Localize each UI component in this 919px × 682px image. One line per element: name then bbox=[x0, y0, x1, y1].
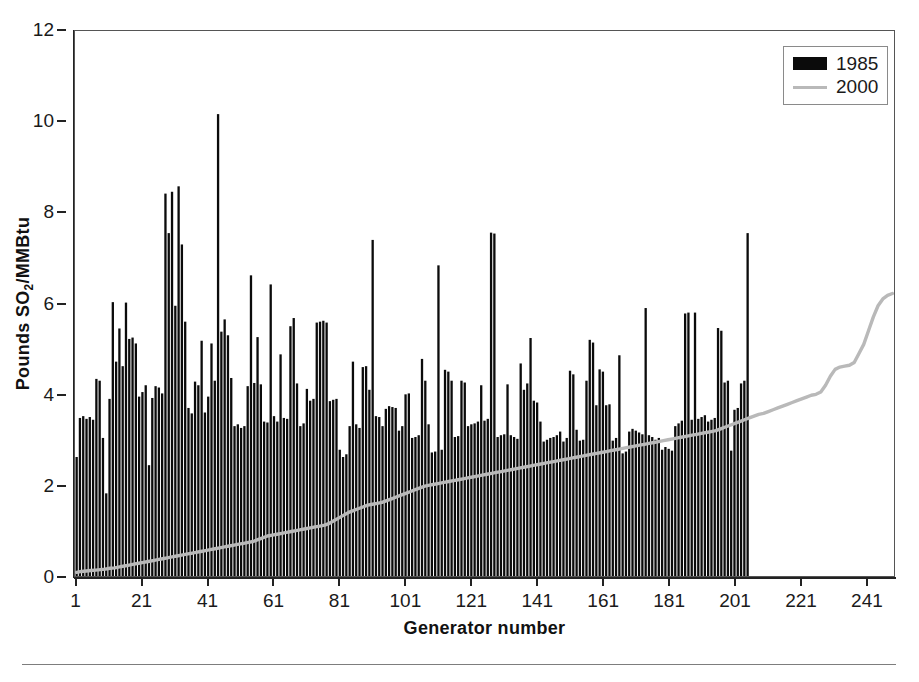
bar bbox=[668, 449, 670, 576]
bar bbox=[651, 437, 653, 576]
bar bbox=[444, 370, 446, 576]
bar bbox=[82, 416, 84, 576]
bar bbox=[276, 422, 278, 576]
bar bbox=[247, 386, 249, 576]
bar bbox=[569, 371, 571, 576]
plot-area bbox=[74, 30, 895, 577]
bar bbox=[138, 397, 140, 576]
bar bbox=[99, 381, 101, 576]
bar bbox=[589, 340, 591, 576]
bar bbox=[477, 422, 479, 576]
y-tick-label: 0 bbox=[43, 566, 54, 588]
bar bbox=[118, 328, 120, 576]
bar bbox=[368, 390, 370, 576]
bar bbox=[122, 366, 124, 576]
bar bbox=[325, 323, 327, 576]
bar bbox=[727, 381, 729, 576]
bar bbox=[135, 343, 137, 576]
bar bbox=[200, 341, 202, 576]
bar bbox=[358, 428, 360, 576]
bar bbox=[691, 420, 693, 576]
bar bbox=[184, 322, 186, 576]
bar bbox=[388, 406, 390, 576]
bar bbox=[145, 385, 147, 576]
x-tick-mark bbox=[75, 577, 77, 586]
bar bbox=[322, 321, 324, 576]
bar bbox=[457, 436, 459, 576]
bar bbox=[224, 319, 226, 576]
chart-legend: 1985 2000 bbox=[783, 46, 888, 105]
bar bbox=[316, 323, 318, 576]
x-tick-label: 121 bbox=[455, 590, 487, 612]
bar bbox=[500, 435, 502, 576]
bar bbox=[253, 383, 255, 576]
bar bbox=[674, 426, 676, 576]
bar bbox=[710, 420, 712, 576]
bar bbox=[533, 401, 535, 576]
bar bbox=[128, 339, 130, 576]
bar bbox=[740, 383, 742, 576]
legend-swatch-bar-icon bbox=[793, 57, 827, 70]
bar bbox=[427, 424, 429, 576]
y-tick-mark bbox=[57, 211, 66, 213]
x-tick-mark bbox=[470, 577, 472, 586]
bar bbox=[398, 431, 400, 576]
bar bbox=[266, 422, 268, 576]
y-tick-label: 10 bbox=[33, 110, 54, 132]
bar bbox=[556, 435, 558, 576]
bar bbox=[404, 394, 406, 576]
bar bbox=[618, 355, 620, 576]
x-tick-label: 81 bbox=[329, 590, 350, 612]
bar bbox=[602, 372, 604, 576]
bar bbox=[75, 457, 77, 576]
bar bbox=[319, 322, 321, 576]
bar bbox=[289, 326, 291, 576]
bar bbox=[526, 383, 528, 576]
bars-series-1985 bbox=[75, 114, 748, 576]
bar bbox=[177, 186, 179, 576]
bar bbox=[401, 426, 403, 576]
bar bbox=[102, 438, 104, 576]
x-tick-label: 161 bbox=[587, 590, 619, 612]
bar bbox=[454, 437, 456, 576]
bar bbox=[243, 426, 245, 576]
bar bbox=[579, 441, 581, 576]
bar bbox=[431, 452, 433, 576]
bar bbox=[378, 417, 380, 576]
bar bbox=[339, 450, 341, 576]
bar bbox=[628, 432, 630, 576]
bar bbox=[697, 419, 699, 576]
x-tick-label: 221 bbox=[785, 590, 817, 612]
y-tick-mark bbox=[57, 394, 66, 396]
bar bbox=[414, 437, 416, 576]
x-tick-label: 201 bbox=[719, 590, 751, 612]
bar bbox=[89, 417, 91, 576]
bar bbox=[250, 275, 252, 576]
bar bbox=[158, 388, 160, 576]
bar bbox=[552, 437, 554, 576]
bar bbox=[549, 438, 551, 576]
x-tick-mark bbox=[602, 577, 604, 586]
bar bbox=[497, 437, 499, 576]
bar bbox=[395, 408, 397, 576]
x-tick-mark bbox=[207, 577, 209, 586]
bar bbox=[664, 447, 666, 576]
bar bbox=[434, 452, 436, 576]
bar bbox=[217, 114, 219, 576]
bar bbox=[362, 367, 364, 576]
bar bbox=[677, 423, 679, 576]
bar bbox=[365, 366, 367, 576]
bar bbox=[240, 428, 242, 576]
bar bbox=[441, 450, 443, 576]
y-tick-label: 4 bbox=[43, 384, 54, 406]
y-tick-mark bbox=[57, 576, 66, 578]
bar bbox=[658, 438, 660, 576]
legend-label-1985: 1985 bbox=[836, 54, 878, 73]
bar bbox=[302, 423, 304, 576]
x-tick-label: 141 bbox=[521, 590, 553, 612]
x-tick-label: 241 bbox=[851, 590, 883, 612]
y-tick-mark bbox=[57, 485, 66, 487]
x-tick-mark bbox=[800, 577, 802, 586]
bar bbox=[746, 233, 748, 576]
bar bbox=[270, 284, 272, 576]
